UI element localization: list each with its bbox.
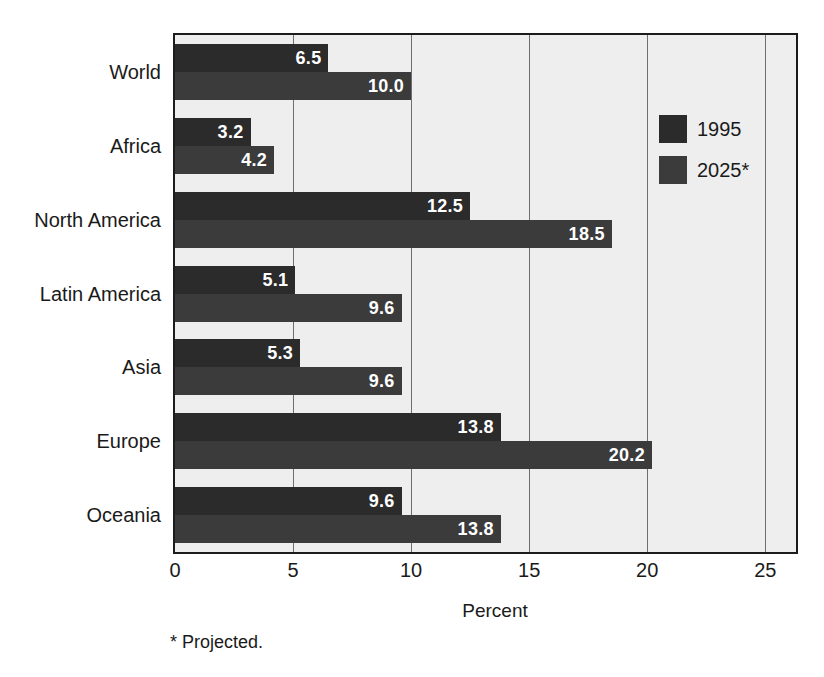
category-label-north-america: North America <box>34 210 161 230</box>
legend-swatch-icon <box>659 115 687 143</box>
bar-value-label: 13.8 <box>458 520 494 538</box>
bar-value-label: 9.6 <box>369 492 395 510</box>
bar-value-label: 18.5 <box>569 225 605 243</box>
bar-value-label: 9.6 <box>369 299 395 317</box>
bar-chart-figure: 6.510.03.24.212.518.55.19.65.39.613.820.… <box>0 0 824 677</box>
bar-value-label: 6.5 <box>296 49 322 67</box>
category-label-europe: Europe <box>97 431 162 451</box>
bar: 9.6 <box>175 487 402 515</box>
x-axis-title: Percent <box>0 600 824 622</box>
bar-value-label: 5.1 <box>262 271 288 289</box>
bar-value-label: 4.2 <box>241 151 267 169</box>
bar: 4.2 <box>175 146 274 174</box>
bar-value-label: 13.8 <box>458 418 494 436</box>
bar-value-label: 5.3 <box>267 344 293 362</box>
gridline-15 <box>529 35 530 552</box>
gridline-10 <box>411 35 412 552</box>
bar: 12.5 <box>175 192 470 220</box>
x-tick-15: 15 <box>518 560 540 580</box>
x-tick-25: 25 <box>754 560 776 580</box>
category-label-africa: Africa <box>110 136 161 156</box>
bar: 3.2 <box>175 118 251 146</box>
category-label-latin-america: Latin America <box>40 284 161 304</box>
category-label-asia: Asia <box>122 357 161 377</box>
bar: 9.6 <box>175 294 402 322</box>
legend-swatch-icon <box>659 156 687 184</box>
legend: 19952025* <box>659 115 779 197</box>
bar: 5.3 <box>175 339 300 367</box>
bar-value-label: 9.6 <box>369 372 395 390</box>
bar: 13.8 <box>175 515 501 543</box>
x-tick-20: 20 <box>636 560 658 580</box>
legend-item: 1995 <box>659 115 779 143</box>
gridline-20 <box>647 35 648 552</box>
bar: 10.0 <box>175 72 411 100</box>
bar: 18.5 <box>175 220 612 248</box>
legend-item: 2025* <box>659 156 779 184</box>
bar: 6.5 <box>175 44 328 72</box>
bar: 9.6 <box>175 367 402 395</box>
category-label-oceania: Oceania <box>87 505 162 525</box>
bar: 5.1 <box>175 266 295 294</box>
legend-label: 2025* <box>697 160 749 180</box>
bar-value-label: 20.2 <box>609 446 645 464</box>
x-axis-title-text: Percent <box>462 600 527 621</box>
bar-value-label: 12.5 <box>427 197 463 215</box>
bar: 13.8 <box>175 413 501 441</box>
x-tick-0: 0 <box>169 560 180 580</box>
x-tick-10: 10 <box>400 560 422 580</box>
legend-label: 1995 <box>697 119 742 139</box>
bar: 20.2 <box>175 441 652 469</box>
bar-value-label: 3.2 <box>218 123 244 141</box>
footnote: * Projected. <box>170 632 263 653</box>
category-label-world: World <box>109 62 161 82</box>
bar-value-label: 10.0 <box>368 77 404 95</box>
gridline-25 <box>765 35 766 552</box>
x-tick-5: 5 <box>287 560 298 580</box>
plot-area: 6.510.03.24.212.518.55.19.65.39.613.820.… <box>173 33 798 554</box>
